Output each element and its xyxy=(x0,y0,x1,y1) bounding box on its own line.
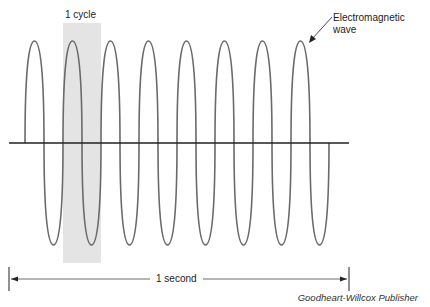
publisher-credit: Goodheart-Willcox Publisher xyxy=(298,292,418,303)
wave-label-line2: wave xyxy=(333,24,356,36)
wave-pointer-arrow xyxy=(312,17,332,39)
cycle-label: 1 cycle xyxy=(65,9,96,21)
wave-diagram xyxy=(0,0,430,307)
duration-label: 1 second xyxy=(156,273,197,285)
wave-label-line1: Electromagnetic xyxy=(333,12,405,24)
duration-right-arrowhead xyxy=(340,277,347,282)
duration-left-arrowhead xyxy=(11,277,18,282)
